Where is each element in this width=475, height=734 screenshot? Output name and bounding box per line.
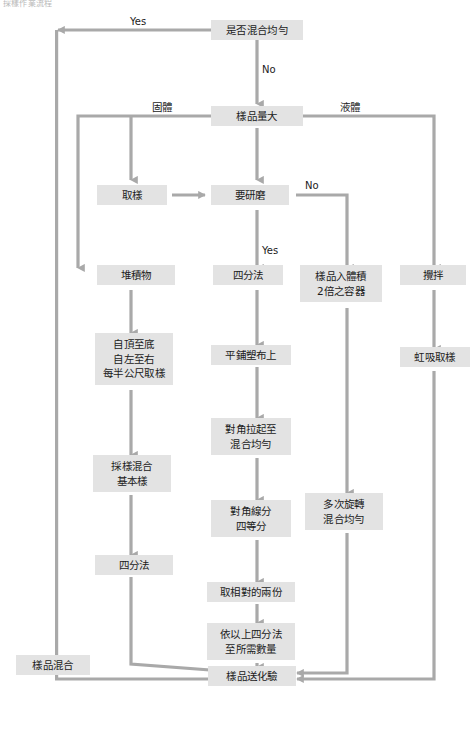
node-siphon-sampling[interactable]: 虹吸取樣 — [400, 347, 470, 367]
node-diagonal-lift-mix[interactable]: 對角拉起至 混合均勻 — [211, 418, 291, 455]
corner-note-text: 採樣作業流程 — [3, 0, 52, 8]
node-repeat-quarter[interactable]: 依以上四分法 至所需數量 — [207, 623, 295, 660]
node-take-sample[interactable]: 取樣 — [97, 185, 167, 205]
node-rotate-many-times-mix[interactable]: 多次旋轉 混合均勻 — [305, 493, 383, 530]
node-quarter-method-center[interactable]: 四分法 — [213, 265, 283, 285]
edge-label-liquid: 液體 — [340, 101, 360, 113]
node-need-grind[interactable]: 要研磨 — [211, 185, 289, 205]
wire-liquid-branch — [303, 116, 434, 268]
node-take-two-opposite[interactable]: 取相對的兩份 — [207, 582, 295, 602]
wire-rotate-to-lab — [297, 533, 347, 673]
edge-label-no-grind: No — [305, 180, 319, 192]
node-sample-mix-basic[interactable]: 採樣混合 基本樣 — [93, 455, 171, 492]
node-diagonal-quarter[interactable]: 對角線分 四等分 — [211, 500, 291, 537]
wire-grind-no — [296, 195, 347, 268]
node-quarter-method-left[interactable]: 四分法 — [95, 555, 173, 575]
node-pile[interactable]: 堆積物 — [97, 265, 175, 285]
node-spread-on-plastic[interactable]: 平鋪塑布上 — [211, 345, 291, 365]
node-into-double-volume-container[interactable]: 樣品入體積 2倍之容器 — [300, 265, 382, 302]
node-top-to-bottom[interactable]: 自頂至底 自左至右 每半公尺取樣 — [95, 333, 173, 385]
edge-label-yes-top: Yes — [130, 16, 146, 28]
flowchart-canvas: 採樣作業流程 — [0, 0, 475, 734]
edge-label-yes-grind: Yes — [262, 245, 278, 257]
node-sample-mix-left[interactable]: 樣品混合 — [16, 655, 90, 675]
node-mix-uniform-check[interactable]: 是否混合均勻 — [211, 20, 303, 40]
edge-label-solid: 固體 — [152, 101, 172, 113]
node-sample-volume-large[interactable]: 樣品量大 — [211, 106, 303, 126]
edge-label-no-top: No — [262, 64, 276, 76]
node-send-to-lab[interactable]: 樣品送化驗 — [208, 666, 296, 686]
node-stir[interactable]: 攪拌 — [400, 265, 466, 285]
